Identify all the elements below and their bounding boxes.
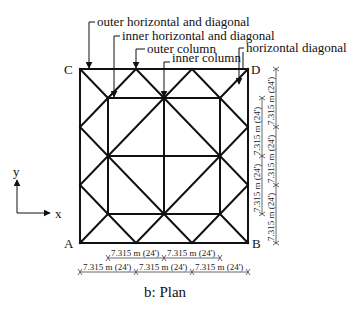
bottom-dimensions: 7.315 m (24') 7.315 m (24') 7.315 m (24'… bbox=[78, 248, 250, 275]
annotation-inner-column: inner column bbox=[172, 50, 241, 65]
annotation-horizontal-diagonal: horizontal diagonal bbox=[246, 40, 347, 55]
dim-right-2c: 7.315 m (24') bbox=[266, 77, 276, 125]
dim-bottom-1b: 7.315 m (24') bbox=[167, 248, 215, 258]
member-annotations: outer horizontal and diagonal inner hori… bbox=[89, 14, 347, 97]
x-axis-label: x bbox=[55, 206, 62, 221]
corner-label-c: C bbox=[64, 62, 73, 77]
annotation-outer-horizontal-diagonal: outer horizontal and diagonal bbox=[97, 14, 250, 29]
structural-plan-diagram: C D A B y x outer horizontal and diagona… bbox=[0, 0, 358, 309]
dim-bottom-2a: 7.315 m (24') bbox=[83, 262, 131, 272]
dim-bottom-1a: 7.315 m (24') bbox=[111, 248, 159, 258]
dim-bottom-2c: 7.315 m (24') bbox=[195, 262, 243, 272]
dim-bottom-2b: 7.315 m (24') bbox=[139, 262, 187, 272]
axis-indicator: y x bbox=[13, 164, 62, 221]
dim-right-2a: 7.315 m (24') bbox=[266, 193, 276, 241]
dim-right-1a: 7.315 m (24') bbox=[252, 164, 262, 212]
corner-label-a: A bbox=[64, 236, 74, 251]
figure-caption: b: Plan bbox=[144, 284, 187, 300]
dim-right-1b: 7.315 m (24') bbox=[252, 107, 262, 155]
y-axis-label: y bbox=[13, 164, 20, 179]
dim-right-2b: 7.315 m (24') bbox=[266, 135, 276, 183]
corner-label-b: B bbox=[252, 236, 261, 251]
corner-label-d: D bbox=[251, 62, 260, 77]
right-dimensions: 7.315 m (24') 7.315 m (24') 7.315 m (24'… bbox=[252, 67, 279, 245]
